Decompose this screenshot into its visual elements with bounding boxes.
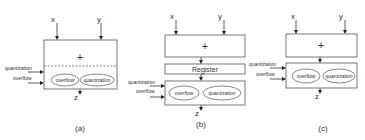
arrow-head-icon	[55, 36, 59, 40]
quantization-input-label: quantization	[249, 61, 276, 67]
arrow-head-icon	[161, 95, 165, 99]
arrow-head-icon	[343, 30, 347, 34]
overflow-ellipse-label: overflow	[297, 73, 316, 79]
overflow-ellipse-label: overflow	[56, 77, 75, 83]
adder-plus-symbol: +	[318, 39, 324, 51]
arrow-head-icon	[161, 84, 165, 88]
arrow-head-icon	[282, 66, 286, 70]
arrow-head-icon	[40, 70, 44, 74]
input-x-label: x	[291, 12, 295, 21]
arrow-head-icon	[40, 81, 44, 85]
overflow-input-label: overflow	[256, 71, 275, 77]
overflow-ellipse-label: overflow	[175, 90, 194, 96]
arrow-head-icon	[294, 30, 298, 34]
arrow-head-icon	[174, 31, 178, 35]
panel-a: x y + overflow quantization quantization…	[5, 15, 117, 133]
arrow-head-icon	[99, 36, 103, 40]
quantization-input-label: quantization	[128, 79, 155, 85]
adder-plus-symbol: +	[77, 51, 83, 63]
panel-b: x y + Register overflow quantization qua…	[128, 12, 245, 129]
output-z-label: z	[74, 93, 78, 102]
output-z-label: z	[195, 109, 199, 118]
arrow-head-icon	[222, 31, 226, 35]
output-z-label: z	[315, 92, 319, 101]
panel-c-caption: (c)	[318, 124, 328, 133]
panel-b-caption: (b)	[196, 120, 206, 129]
quantization-overflow-diagram: x y + overflow quantization quantization…	[0, 0, 365, 140]
input-x-label: x	[51, 15, 55, 24]
input-x-label: x	[170, 12, 174, 21]
panel-a-caption: (a)	[75, 124, 85, 133]
input-y-label: y	[97, 15, 101, 24]
panel-c: x y + overflow quantization quantization…	[249, 12, 357, 133]
arrow-head-icon	[318, 59, 322, 63]
register-label: Register	[192, 66, 219, 74]
quantization-ellipse-label: quantization	[209, 90, 236, 96]
input-y-label: y	[339, 12, 343, 21]
input-y-label: y	[218, 12, 222, 21]
arrow-head-icon	[199, 60, 203, 64]
arrow-head-icon	[199, 77, 203, 81]
quantization-ellipse-label: quantization	[326, 73, 353, 79]
overflow-input-label: overflow	[136, 88, 155, 94]
adder-plus-symbol: +	[202, 40, 208, 52]
quantization-input-label: quantization	[5, 65, 32, 71]
quantization-ellipse-label: quantization	[84, 77, 111, 83]
arrow-head-icon	[282, 77, 286, 81]
overflow-input-label: overflow	[13, 75, 32, 81]
output-arrow-head-icon	[199, 107, 203, 111]
